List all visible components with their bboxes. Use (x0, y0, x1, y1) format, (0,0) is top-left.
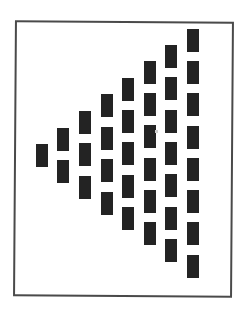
bar-col8-row2 (187, 61, 199, 84)
bar-col6-row2 (144, 93, 156, 116)
bar-col8-row5 (187, 158, 199, 181)
scan-speck (155, 130, 158, 133)
bar-col7-row6 (165, 207, 177, 230)
bar-col7-row2 (165, 77, 177, 100)
bar-col8-row6 (187, 190, 199, 213)
bar-col7-row7 (165, 239, 177, 262)
bar-col1-row1 (36, 144, 48, 167)
bar-col7-row3 (165, 110, 177, 133)
bar-col3-row3 (79, 176, 91, 199)
bar-col7-row1 (165, 45, 177, 68)
bar-col2-row2 (57, 160, 69, 183)
bar-col6-row5 (144, 190, 156, 213)
bar-col8-row1 (187, 29, 199, 52)
bar-col2-row1 (57, 128, 69, 151)
bar-col5-row2 (122, 110, 134, 133)
bar-col4-row3 (101, 159, 113, 182)
bar-col8-row3 (187, 93, 199, 116)
bar-col3-row2 (79, 143, 91, 166)
bar-col3-row1 (79, 111, 91, 134)
bar-col6-row6 (144, 222, 156, 245)
bar-col5-row4 (122, 175, 134, 198)
bar-col5-row5 (122, 207, 134, 230)
bar-col6-row1 (144, 61, 156, 84)
bar-col6-row3 (144, 125, 156, 148)
bar-col6-row4 (144, 158, 156, 181)
bar-col4-row1 (101, 94, 113, 117)
bar-col8-row4 (187, 126, 199, 149)
bar-col8-row7 (187, 222, 199, 245)
bar-col7-row4 (165, 142, 177, 165)
bar-col5-row1 (122, 78, 134, 101)
bar-col5-row3 (122, 142, 134, 165)
bar-col4-row4 (101, 192, 113, 215)
bar-col4-row2 (101, 127, 113, 150)
bar-col7-row5 (165, 174, 177, 197)
bar-col8-row8 (187, 255, 199, 278)
